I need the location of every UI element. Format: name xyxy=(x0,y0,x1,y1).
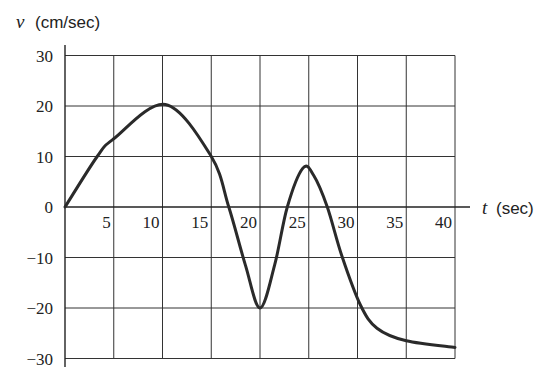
velocity-time-chart: v (cm/sec) 3020100−10−20−30 510152025303… xyxy=(0,0,556,381)
x-tick-label: 15 xyxy=(191,213,208,232)
x-axis-unit: (sec) xyxy=(496,199,534,218)
x-tick-label: 10 xyxy=(143,213,160,232)
y-tick-labels: 3020100−10−20−30 xyxy=(26,47,53,369)
y-axis-label: v (cm/sec) xyxy=(16,11,100,32)
x-tick-label: 20 xyxy=(240,213,257,232)
x-tick-label: 40 xyxy=(435,213,452,232)
x-axis-variable: t xyxy=(482,197,488,218)
x-tick-label: 25 xyxy=(289,213,306,232)
y-tick-label: 20 xyxy=(36,97,53,116)
y-tick-label: −10 xyxy=(26,249,53,268)
y-tick-label: 10 xyxy=(36,148,53,167)
x-tick-label: 35 xyxy=(386,213,403,232)
x-tick-label: 5 xyxy=(102,213,111,232)
y-axis-unit: (cm/sec) xyxy=(35,13,100,32)
x-axis-label: t (sec) xyxy=(482,197,534,218)
y-tick-label: −30 xyxy=(26,350,53,369)
y-tick-label: −20 xyxy=(26,299,53,318)
x-tick-label: 30 xyxy=(338,213,355,232)
x-tick-labels: 510152025303540 xyxy=(102,213,452,232)
y-tick-label: 30 xyxy=(36,47,53,66)
y-axis-variable: v xyxy=(16,11,25,32)
y-tick-label: 0 xyxy=(45,198,54,217)
